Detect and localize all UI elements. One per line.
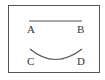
label-a: A — [27, 24, 35, 35]
diagram-canvas — [0, 0, 105, 80]
curve-cd — [30, 49, 82, 60]
label-c: C — [27, 56, 34, 67]
label-d: D — [77, 56, 85, 67]
label-b: B — [77, 24, 84, 35]
